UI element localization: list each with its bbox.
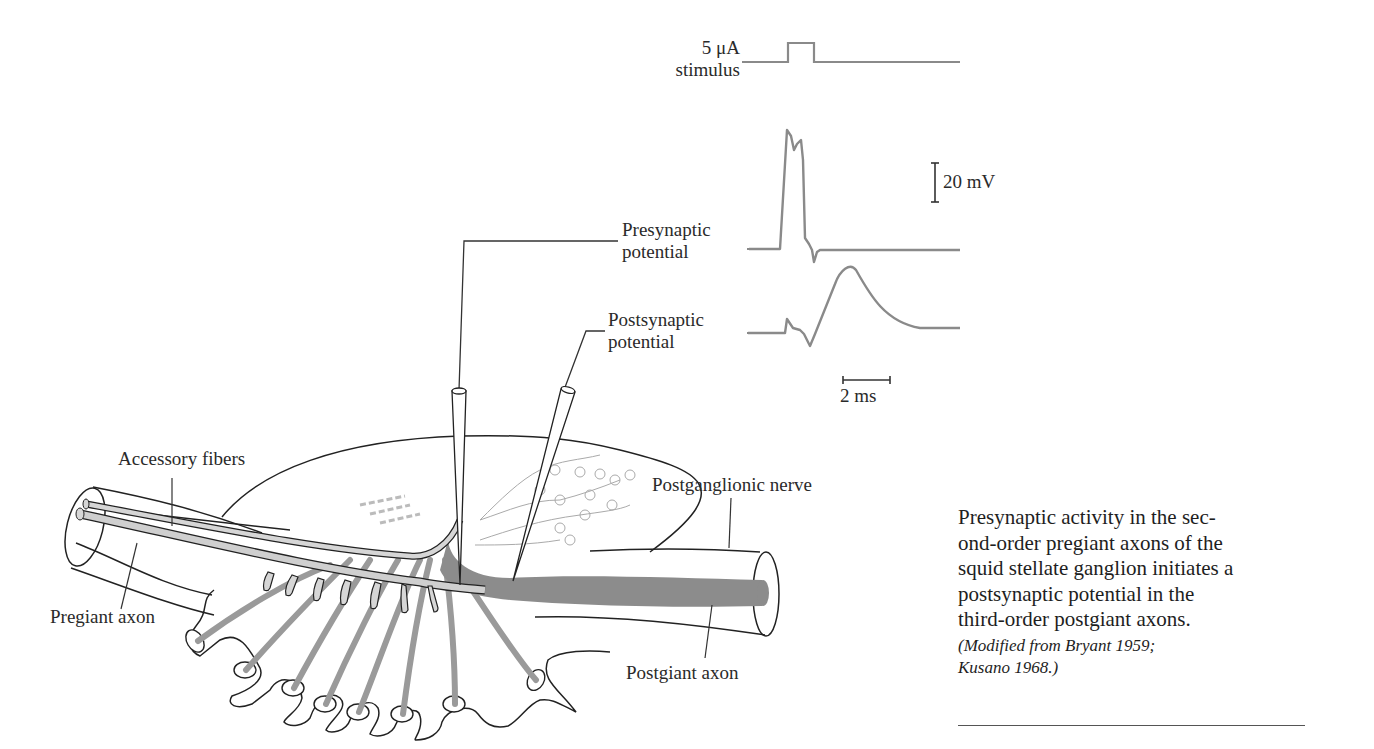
caption-line: postsynaptic potential in the [958,582,1308,608]
postsynaptic-line1: Postsynaptic [608,309,704,331]
postsynaptic-electrode [513,385,576,581]
presynaptic-line1: Presynaptic [622,219,711,241]
caption-divider [958,725,1305,726]
dashed-fibers [360,496,420,523]
caption-line: squid stellate ganglion initiates a [958,556,1308,582]
credit-line: (Modified from Bryant 1959; [958,635,1308,657]
presynaptic-trace [749,130,960,262]
accessory-fibers-label: Accessory fibers [118,448,245,470]
postsynaptic-leader-line [564,331,605,390]
postganglionic-nerve-label: Postganglionic nerve [652,474,812,496]
stimulus-amplitude-text: 5 μA [640,37,740,59]
pregiant-nerve-end [58,484,112,570]
presynaptic-electrode [452,388,466,585]
postsynaptic-trace [748,267,960,346]
caption-credit: (Modified from Bryant 1959; Kusano 1968.… [958,635,1308,679]
presynaptic-line2: potential [622,241,711,263]
caption-line: Presynaptic activity in the sec- [958,505,1308,531]
figure-caption: Presynaptic activity in the sec- ond-ord… [958,505,1308,679]
caption-body: Presynaptic activity in the sec- ond-ord… [958,505,1308,633]
stellar-nerve-ends [182,627,548,722]
squid-stellate-ganglion-figure: 5 μA stimulus 20 mV 2 ms Presynaptic pot… [0,0,1374,749]
credit-line: Kusano 1968.) [958,657,1308,679]
voltage-scale-label: 20 mV [943,171,995,193]
stimulus-trace [750,43,960,62]
time-scale-label: 2 ms [840,385,876,407]
postsynaptic-line2: potential [608,331,704,353]
stimulus-label: 5 μA stimulus [640,37,740,81]
time-scale-bar [843,376,890,384]
neuron-cell-bodies [475,455,635,545]
stimulus-text: stimulus [640,59,740,81]
pregiant-axon-label: Pregiant axon [50,606,155,628]
presynaptic-potential-label: Presynaptic potential [622,219,711,263]
voltage-scale-bar [931,163,939,202]
postgiant-axon-label: Postgiant axon [626,662,738,684]
caption-line: ond-order pregiant axons of the [958,531,1308,557]
postsynaptic-potential-label: Postsynaptic potential [608,309,704,353]
presynaptic-leader-line [459,241,618,390]
caption-line: third-order postgiant axons. [958,607,1308,633]
